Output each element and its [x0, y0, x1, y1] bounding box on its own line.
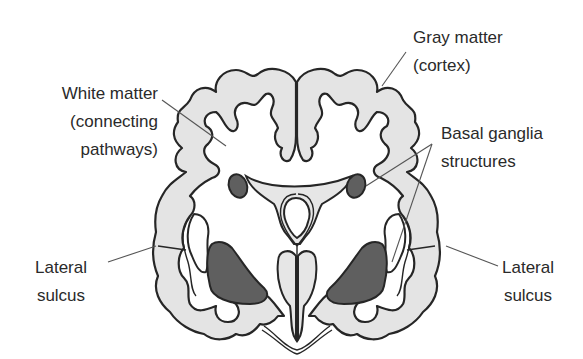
lateral-sulcus-right-leader-line: [446, 246, 498, 266]
white-matter-label-line3: pathways): [62, 136, 158, 164]
lateral-sulcus-left-label: Lateral sulcus: [35, 254, 87, 310]
white-matter-label-line2: (connecting: [62, 108, 158, 136]
basal-ganglia-label: Basal ganglia structures: [441, 120, 543, 176]
right-putamen: [327, 242, 387, 304]
gray-matter-leader-line: [382, 52, 406, 86]
left-putamen: [207, 242, 267, 304]
gray-matter-label: Gray matter (cortex): [413, 24, 503, 80]
right-caudate-nucleus: [343, 172, 368, 201]
gray-matter-label-line2: (cortex): [413, 52, 503, 80]
gray-matter-label-line1: Gray matter: [413, 24, 503, 52]
white-matter-label: White matter (connecting pathways): [62, 80, 158, 164]
lateral-sulcus-right-label-line1: Lateral: [502, 254, 554, 282]
lateral-sulcus-right-label: Lateral sulcus: [502, 254, 554, 310]
basal-ganglia-label-line1: Basal ganglia: [441, 120, 543, 148]
left-thalamus: [278, 251, 296, 340]
right-thalamus: [298, 251, 316, 340]
lateral-sulcus-left-leader-line: [108, 246, 156, 262]
lateral-sulcus-left-label-line1: Lateral: [35, 254, 87, 282]
left-insula-inner: [188, 214, 209, 272]
lateral-sulcus-left-label-line2: sulcus: [35, 282, 87, 310]
basal-ganglia-label-line2: structures: [441, 148, 543, 176]
white-matter-label-line1: White matter: [62, 80, 158, 108]
lateral-sulcus-right-label-line2: sulcus: [502, 282, 554, 310]
